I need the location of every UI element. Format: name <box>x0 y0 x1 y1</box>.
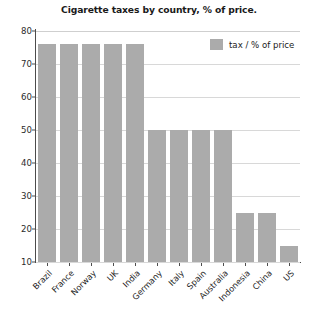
bar-china <box>258 213 276 263</box>
y-tick-mark-50 <box>32 130 36 131</box>
x-tick-mark-brazil <box>47 263 48 266</box>
x-tick-mark-france <box>69 263 70 266</box>
bar-uk <box>104 44 122 262</box>
bar-indonesia <box>236 213 254 263</box>
x-tick-mark-uk <box>113 263 114 266</box>
legend: tax / % of price <box>210 39 294 50</box>
bar-us <box>280 246 298 263</box>
x-tick-mark-china <box>267 263 268 266</box>
bar-chart: Cigarette taxes by country, % of price. … <box>0 0 318 313</box>
y-tick-mark-80 <box>32 31 36 32</box>
legend-swatch-tax <box>210 39 223 50</box>
legend-label-tax: tax / % of price <box>229 40 294 50</box>
x-tick-mark-norway <box>91 263 92 266</box>
y-tick-mark-40 <box>32 163 36 164</box>
y-tick-mark-60 <box>32 97 36 98</box>
x-axis-labels: BrazilFranceNorwayUKIndiaGermanyItalySpa… <box>36 263 300 313</box>
x-tick-mark-italy <box>179 263 180 266</box>
y-tick-mark-30 <box>32 196 36 197</box>
x-tick-mark-us <box>289 263 290 266</box>
bar-france <box>60 44 78 262</box>
bar-brazil <box>38 44 56 262</box>
bar-series <box>36 31 300 262</box>
x-tick-mark-spain <box>201 263 202 266</box>
bar-norway <box>82 44 100 262</box>
plot-area: 1020304050607080 <box>36 31 300 262</box>
y-tick-mark-20 <box>32 229 36 230</box>
x-tick-mark-india <box>135 263 136 266</box>
x-tick-mark-australia <box>223 263 224 266</box>
y-tick-mark-70 <box>32 64 36 65</box>
bar-germany <box>148 130 166 262</box>
x-tick-mark-germany <box>157 263 158 266</box>
bar-australia <box>214 130 232 262</box>
bar-spain <box>192 130 210 262</box>
x-tick-mark-indonesia <box>245 263 246 266</box>
chart-title: Cigarette taxes by country, % of price. <box>0 4 318 15</box>
bar-italy <box>170 130 188 262</box>
bar-india <box>126 44 144 262</box>
